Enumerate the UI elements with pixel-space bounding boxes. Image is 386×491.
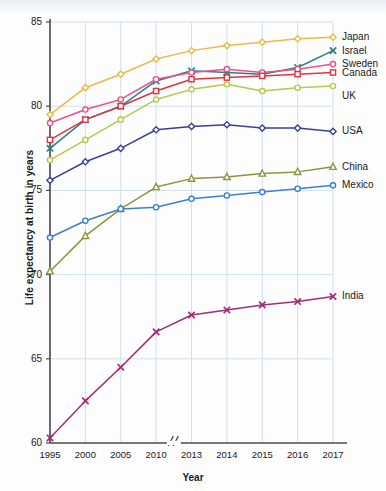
line-chart-plot [0, 0, 386, 491]
data-point-marker [295, 125, 301, 131]
series-label-china: China [342, 161, 368, 172]
data-point-marker [224, 42, 230, 48]
data-point-marker [189, 70, 194, 75]
data-point-marker [83, 117, 88, 122]
data-point-marker [47, 120, 52, 125]
data-point-marker [188, 123, 194, 129]
x-tick-label: 1995 [30, 449, 70, 460]
x-tick-label: 2017 [313, 449, 353, 460]
data-point-marker [189, 77, 194, 82]
x-tick-label: 2005 [101, 449, 141, 460]
data-point-marker [295, 72, 300, 77]
data-point-marker [47, 157, 52, 162]
series-label-israel: Israel [342, 45, 366, 56]
data-point-marker [224, 75, 229, 80]
data-point-marker [154, 77, 159, 82]
data-point-marker [330, 70, 335, 75]
data-point-marker [260, 88, 265, 93]
data-point-marker [83, 137, 88, 142]
data-point-marker [154, 88, 159, 93]
data-point-marker [260, 73, 265, 78]
data-point-marker [330, 34, 336, 40]
y-tick-label: 85 [16, 16, 42, 27]
series-label-canada: Canada [342, 67, 377, 78]
data-point-marker [47, 137, 52, 142]
data-point-marker [118, 206, 123, 211]
series-label-usa: USA [342, 125, 363, 136]
x-tick-label: 2015 [242, 449, 282, 460]
data-point-marker [47, 235, 52, 240]
data-point-marker [47, 177, 53, 183]
data-point-marker [330, 83, 335, 88]
data-point-marker [82, 232, 88, 238]
data-point-marker [153, 183, 159, 189]
y-tick-label: 60 [16, 437, 42, 448]
y-tick-label: 70 [16, 269, 42, 280]
data-point-marker [259, 39, 265, 45]
x-tick-label: 2016 [278, 449, 318, 460]
x-tick-label: 2010 [136, 449, 176, 460]
data-point-marker [294, 168, 300, 174]
series-label-mexico: Mexico [342, 179, 374, 190]
data-point-marker [188, 48, 194, 54]
data-point-marker [153, 56, 159, 62]
data-point-marker [83, 218, 88, 223]
data-point-marker [260, 189, 265, 194]
series-label-uk: UK [342, 90, 356, 101]
x-axis-title: Year [0, 472, 386, 483]
x-tick-label: 2000 [65, 449, 105, 460]
data-point-marker [330, 128, 336, 134]
data-point-marker [118, 104, 123, 109]
data-point-marker [82, 159, 88, 165]
data-point-marker [224, 122, 230, 128]
axis-break-gap [167, 441, 181, 445]
data-point-marker [189, 196, 194, 201]
data-point-marker [259, 125, 265, 131]
y-axis-title: Life expectancy at birth in years [24, 133, 35, 323]
data-point-marker [295, 85, 300, 90]
data-point-marker [154, 97, 159, 102]
data-point-marker [188, 175, 194, 181]
data-point-marker [224, 193, 229, 198]
series-label-india: India [342, 290, 364, 301]
data-point-marker [330, 163, 336, 169]
data-point-marker [83, 107, 88, 112]
data-point-marker [189, 87, 194, 92]
data-point-marker [295, 36, 301, 42]
data-point-marker [330, 183, 335, 188]
data-point-marker [118, 97, 123, 102]
data-point-marker [259, 170, 265, 176]
data-point-marker [330, 62, 335, 67]
y-tick-label: 80 [16, 100, 42, 111]
data-point-marker [224, 173, 230, 179]
series-label-japan: Japan [342, 31, 369, 42]
y-tick-label: 65 [16, 353, 42, 364]
data-point-marker [224, 67, 229, 72]
data-point-marker [295, 186, 300, 191]
y-tick-label: 75 [16, 184, 42, 195]
data-point-marker [224, 82, 229, 87]
x-tick-label: 2013 [172, 449, 212, 460]
chart-page: Life expectancy at birth in years Year 8… [0, 0, 386, 491]
x-tick-label: 2014 [207, 449, 247, 460]
data-point-marker [153, 127, 159, 133]
data-point-marker [118, 71, 124, 77]
data-point-marker [154, 205, 159, 210]
data-point-marker [118, 117, 123, 122]
data-point-marker [118, 145, 124, 151]
